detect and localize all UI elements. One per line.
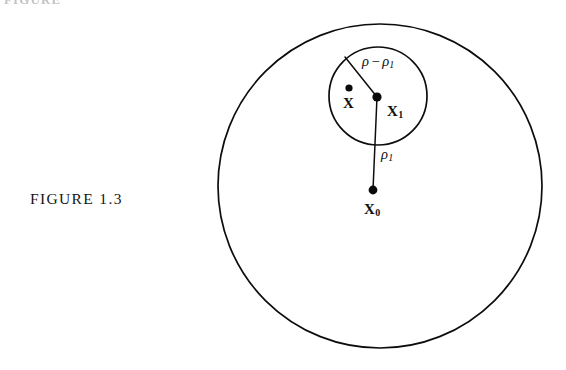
figure-diagram xyxy=(0,0,566,370)
segment-rho1 xyxy=(373,97,377,190)
label-x1-base: X xyxy=(387,103,398,119)
point-x1-dot xyxy=(372,92,381,101)
point-x-dot xyxy=(345,84,352,91)
label-x1-subscript: 1 xyxy=(398,109,403,120)
label-x0-subscript: 0 xyxy=(375,207,380,218)
label-rho-symbol: ρ xyxy=(362,53,369,69)
outer-circle xyxy=(218,24,542,348)
point-x0-dot xyxy=(369,186,378,195)
label-rho-minus-rho1: ρ−ρ1 xyxy=(362,53,394,70)
label-x1: X1 xyxy=(387,103,404,120)
label-rho1-base: ρ xyxy=(381,146,388,162)
label-rho-subscript: 1 xyxy=(389,59,394,70)
label-x0-base: X xyxy=(364,201,375,217)
label-x0: X0 xyxy=(364,201,381,218)
figure-root: FIGURE FIGURE 1.3 ρ−ρ1 ρ1 X X1 X0 xyxy=(0,0,566,370)
label-rho1: ρ1 xyxy=(381,146,393,163)
label-minus-symbol: − xyxy=(371,53,379,69)
label-rho1-subscript: 1 xyxy=(388,152,393,163)
label-x: X xyxy=(343,95,354,112)
label-x-base: X xyxy=(343,95,354,111)
